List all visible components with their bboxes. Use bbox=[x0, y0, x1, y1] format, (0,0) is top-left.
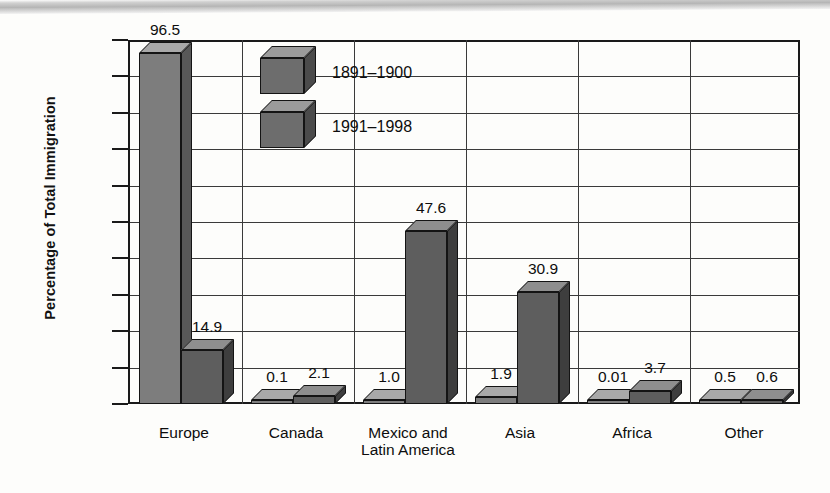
bar-side-face bbox=[559, 281, 570, 404]
x-axis-label-line: Asia bbox=[505, 424, 535, 441]
category-separator bbox=[242, 40, 243, 404]
x-axis-label: Mexico andLatin America bbox=[361, 424, 455, 459]
gridline bbox=[130, 149, 800, 150]
gridline bbox=[130, 186, 800, 187]
bar-value-label: 0.5 bbox=[714, 368, 736, 386]
bar-value-label: 14.9 bbox=[192, 318, 222, 336]
bar-front-face bbox=[741, 400, 783, 404]
x-axis-label: Other bbox=[725, 424, 764, 441]
bar bbox=[475, 397, 517, 404]
bar-value-label: 2.1 bbox=[308, 364, 330, 382]
x-axis-label-line: Latin America bbox=[361, 441, 455, 458]
legend-cube-front bbox=[260, 112, 304, 148]
y-tick-mark bbox=[112, 39, 128, 41]
bar-front-face bbox=[293, 396, 335, 404]
bar-value-label: 0.1 bbox=[266, 368, 288, 386]
y-tick-mark bbox=[112, 75, 128, 77]
bar-value-label: 47.6 bbox=[416, 199, 446, 217]
bar-front-face bbox=[405, 231, 447, 404]
bar bbox=[405, 231, 447, 404]
bar-front-face bbox=[181, 350, 223, 404]
gridline bbox=[130, 76, 800, 77]
bar-value-label: 3.7 bbox=[644, 359, 666, 377]
bar-front-face bbox=[475, 397, 517, 404]
legend-label: 1891–1900 bbox=[332, 64, 412, 82]
x-axis-label: Canada bbox=[269, 424, 323, 441]
x-axis-label-line: Other bbox=[725, 424, 764, 441]
bar-front-face bbox=[517, 292, 559, 404]
y-tick-mark bbox=[112, 330, 128, 332]
y-tick-mark bbox=[112, 367, 128, 369]
legend-label: 1991–1998 bbox=[332, 118, 412, 136]
bar-front-face bbox=[629, 391, 671, 404]
category-separator bbox=[354, 40, 355, 404]
gridline bbox=[130, 331, 800, 332]
legend-swatch-cube-icon bbox=[260, 112, 304, 148]
legend-cube-front bbox=[260, 58, 304, 94]
gridline bbox=[130, 113, 800, 114]
y-tick-mark bbox=[112, 112, 128, 114]
plot-frame-top bbox=[130, 40, 800, 42]
bar bbox=[251, 400, 293, 404]
gridline bbox=[130, 258, 800, 259]
bar-value-label: 96.5 bbox=[150, 21, 180, 39]
bar-front-face bbox=[139, 53, 181, 404]
x-axis-label-line: Europe bbox=[159, 424, 209, 441]
x-axis-label-line: Africa bbox=[612, 424, 652, 441]
y-tick-mark bbox=[112, 148, 128, 150]
bar-side-face bbox=[223, 339, 234, 404]
x-axis-label-line: Mexico and bbox=[361, 424, 455, 441]
bar-value-label: 0.01 bbox=[598, 368, 628, 386]
bar-side-face bbox=[447, 220, 458, 404]
x-axis-label: Europe bbox=[159, 424, 209, 441]
y-tick-mark bbox=[112, 403, 128, 405]
bar-front-face bbox=[587, 400, 629, 404]
bar bbox=[741, 400, 783, 404]
bar-front-face bbox=[699, 400, 741, 404]
bar bbox=[363, 400, 405, 404]
bar-front-face bbox=[251, 400, 293, 404]
y-axis-title: Percentage of Total Immigration bbox=[42, 63, 58, 353]
x-axis-label-line: Canada bbox=[269, 424, 323, 441]
bar-value-label: 1.0 bbox=[378, 368, 400, 386]
category-separator bbox=[578, 40, 579, 404]
category-separator bbox=[690, 40, 691, 404]
bar bbox=[181, 350, 223, 404]
bar-front-face bbox=[363, 400, 405, 404]
y-tick-mark bbox=[112, 257, 128, 259]
y-tick-mark bbox=[112, 185, 128, 187]
bar bbox=[517, 292, 559, 404]
x-axis-label: Africa bbox=[612, 424, 652, 441]
bar-value-label: 1.9 bbox=[490, 365, 512, 383]
bar bbox=[139, 53, 181, 404]
bar-value-label: 0.6 bbox=[756, 368, 778, 386]
gridline bbox=[130, 222, 800, 223]
chart-canvas: Percentage of Total Immigration 01020304… bbox=[0, 0, 830, 493]
bar bbox=[293, 396, 335, 404]
bar-value-label: 30.9 bbox=[528, 260, 558, 278]
bar bbox=[629, 391, 671, 404]
plot-area: 0102030405060708090100 96.514.90.12.11.0… bbox=[128, 40, 800, 404]
legend-swatch-cube-icon bbox=[260, 58, 304, 94]
category-separator bbox=[466, 40, 467, 404]
bar bbox=[699, 400, 741, 404]
bar bbox=[587, 400, 629, 404]
y-tick-mark bbox=[112, 294, 128, 296]
x-axis-label: Asia bbox=[505, 424, 535, 441]
y-tick-mark bbox=[112, 221, 128, 223]
gridline bbox=[130, 295, 800, 296]
